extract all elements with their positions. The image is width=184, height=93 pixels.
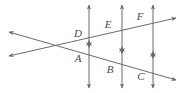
point-label-F: F	[136, 10, 144, 22]
point-label-D: D	[73, 27, 82, 39]
vertical-line-2	[119, 5, 125, 88]
geometry-figure: D E F A B C	[0, 0, 184, 93]
point-label-E: E	[104, 18, 112, 30]
geometry-canvas: D E F A B C	[0, 0, 184, 93]
point-label-A: A	[74, 52, 82, 64]
vertical-line-3	[150, 5, 156, 88]
point-label-B: B	[107, 63, 114, 75]
point-label-C: C	[137, 70, 145, 82]
upper-transversal-line	[9, 18, 176, 56]
vertical-line-1	[86, 5, 92, 88]
